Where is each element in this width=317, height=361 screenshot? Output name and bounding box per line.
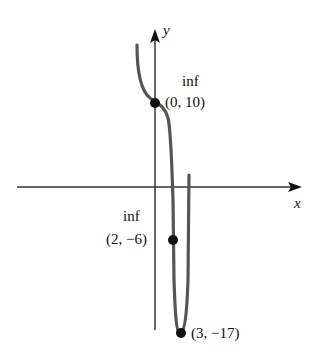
point-2-label: (3, −17)	[191, 325, 239, 342]
point-0-note: inf	[182, 73, 199, 90]
x-axis-label: x	[294, 195, 301, 212]
point-3-neg17	[176, 328, 186, 338]
point-2-neg6	[168, 235, 178, 245]
point-0-10	[150, 98, 160, 108]
y-axis-label: y	[163, 22, 170, 39]
point-1-note: inf	[123, 208, 140, 225]
point-0-label: (0, 10)	[165, 94, 205, 111]
point-1-label: (2, −6)	[106, 231, 147, 248]
graph-canvas	[0, 0, 317, 361]
